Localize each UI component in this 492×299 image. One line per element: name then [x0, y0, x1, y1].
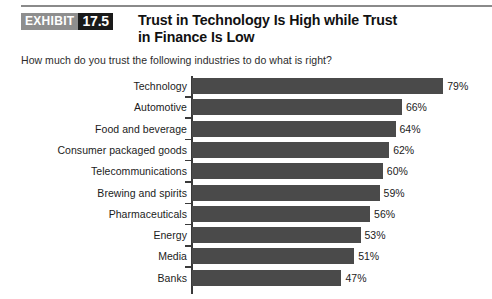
figure-header: EXHIBIT 17.5 Trust in Technology Is High… [21, 12, 486, 46]
bar-value-label: 66% [406, 99, 427, 115]
bar [192, 185, 380, 201]
chart-row: Automotive66% [21, 97, 486, 118]
bar-value-label: 62% [393, 142, 414, 158]
chart-row: Consumer packaged goods62% [21, 140, 486, 161]
category-label: Food and beverage [95, 119, 187, 140]
category-label: Technology [133, 76, 187, 97]
exhibit-figure: EXHIBIT 17.5 Trust in Technology Is High… [0, 0, 492, 299]
bar-value-label: 79% [447, 78, 468, 94]
chart-plot-area: Technology79%Automotive66%Food and bever… [21, 76, 486, 294]
exhibit-badge: EXHIBIT 17.5 [21, 13, 113, 30]
bar-value-label: 59% [384, 185, 405, 201]
bar [192, 121, 396, 137]
category-label: Brewing and spirits [97, 183, 187, 204]
chart-row: Media51% [21, 246, 486, 267]
title-line-2: in Finance Is Low [138, 29, 486, 46]
category-label: Banks [158, 268, 187, 289]
category-label: Telecommunications [91, 161, 187, 182]
bar-value-label: 60% [387, 163, 408, 179]
chart-row: Pharmaceuticals56% [21, 204, 486, 225]
category-label: Consumer packaged goods [57, 140, 187, 161]
bar-value-label: 64% [400, 121, 421, 137]
bar-value-label: 53% [365, 227, 386, 243]
category-label: Automotive [134, 97, 187, 118]
bar-chart: Technology79%Automotive66%Food and bever… [21, 76, 486, 294]
bar [192, 206, 370, 222]
chart-subtitle: How much do you trust the following indu… [21, 54, 332, 66]
bar [192, 142, 389, 158]
chart-row: Telecommunications60% [21, 161, 486, 182]
bar-value-label: 51% [358, 248, 379, 264]
chart-row: Brewing and spirits59% [21, 183, 486, 204]
bar-value-label: 56% [374, 206, 395, 222]
bar [192, 270, 341, 286]
top-divider-rule [21, 5, 492, 7]
exhibit-number: 17.5 [78, 13, 112, 30]
chart-row: Energy53% [21, 225, 486, 246]
bar [192, 78, 443, 94]
chart-row: Technology79% [21, 76, 486, 97]
category-label: Energy [153, 225, 187, 246]
bar [192, 163, 383, 179]
chart-row: Food and beverage64% [21, 119, 486, 140]
title-line-1: Trust in Technology Is High while Trust [138, 12, 486, 29]
chart-row: Banks47% [21, 268, 486, 289]
category-label: Media [158, 246, 187, 267]
bar [192, 248, 354, 264]
category-label: Pharmaceuticals [109, 204, 187, 225]
bar [192, 99, 402, 115]
bar [192, 227, 361, 243]
bar-value-label: 47% [345, 270, 366, 286]
exhibit-label: EXHIBIT [21, 13, 78, 30]
